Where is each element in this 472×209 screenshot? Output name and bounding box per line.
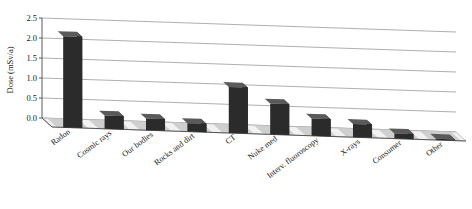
bar-front-face	[312, 119, 331, 137]
category-label: Consumer	[371, 138, 404, 166]
y-tick-label: 0.0	[26, 113, 37, 123]
bar-top-face	[347, 119, 372, 125]
y-axis-title-text: Dose (mSv/a)	[5, 46, 15, 93]
bars-group	[58, 31, 455, 140]
bar-chart: 0.00.51.01.52.02.5 RadonCosmic raysOur b…	[0, 0, 472, 209]
y-axis-title: Dose (mSv/a)	[5, 46, 15, 93]
bar-top-face	[140, 114, 165, 120]
gridline	[42, 98, 456, 112]
category-label: Nuke med	[246, 134, 278, 162]
bar-top-face	[223, 82, 248, 88]
y-tick-label: 1.5	[26, 53, 37, 63]
y-tick-labels: 0.00.51.01.52.02.5	[26, 13, 37, 123]
category-label: Our bodies	[120, 130, 154, 159]
bar-front-face	[229, 87, 248, 134]
bar-top-face	[265, 99, 290, 105]
y-tick-label: 2.5	[26, 13, 37, 23]
gridline	[42, 78, 456, 92]
gridline	[42, 18, 456, 32]
bar	[58, 31, 83, 128]
gridline	[42, 38, 456, 52]
gridline	[42, 58, 456, 72]
chart-canvas: 0.00.51.01.52.02.5 RadonCosmic raysOur b…	[0, 0, 472, 209]
bar-front-face	[146, 119, 165, 131]
bar-front-face	[353, 124, 372, 138]
y-tick-label: 2.0	[26, 33, 37, 43]
category-label: Rocks and dirt	[153, 131, 197, 167]
y-tick-label: 0.5	[26, 93, 37, 103]
y-tick-label: 1.0	[26, 73, 37, 83]
bar-front-face	[270, 104, 289, 135]
category-label: CT	[224, 133, 238, 146]
bar-top-face	[306, 114, 331, 120]
bar-front-face	[63, 36, 82, 128]
bar-front-face	[105, 116, 124, 130]
category-label: Cosmic rays	[75, 129, 113, 161]
category-label: Other	[424, 140, 445, 159]
category-label: Radon	[49, 127, 71, 147]
bar-top-face	[58, 31, 83, 37]
category-label: X-rays	[338, 137, 361, 158]
bar-top-face	[99, 111, 124, 117]
